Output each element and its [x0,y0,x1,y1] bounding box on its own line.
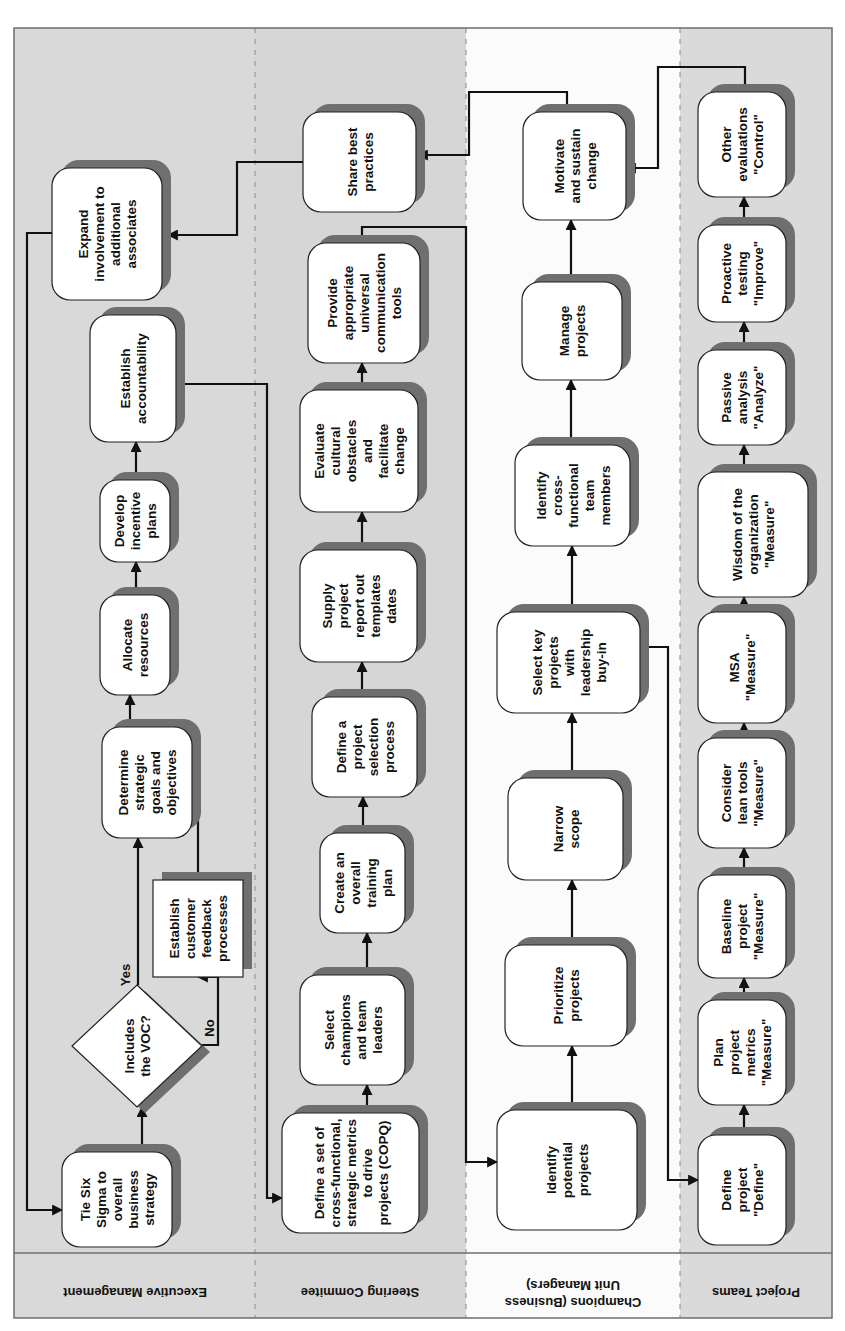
node-label-line: projects [576,1144,591,1197]
node-label-line: cultural [328,427,343,476]
node-label-line: change [584,142,599,190]
lane-label-executive: Executive Management [62,1285,206,1300]
node-label: Considerlean tools"Measure" [719,759,766,827]
node-label: Define aprojectselectionprocess [334,718,397,777]
node-label-line: Sigma to [94,1171,109,1228]
node-share-practices: Share bestpractices [303,104,425,212]
node-label-line: and [360,439,375,463]
node-label-line: feedback [199,899,214,958]
lane-label-steering: Steering Commitee [301,1285,419,1300]
node-label-line: Define a set of [312,1126,327,1219]
node-label-line: projects (COPQ) [376,1120,391,1225]
swimlane-flowchart: Executive Management Steering Commitee C… [0,0,845,1331]
node-label-line: project [336,583,351,629]
node-label-line: testing [735,251,750,295]
node-supply-templates: Supplyprojectreport outtemplatesdates [300,542,426,662]
process-box [100,595,170,695]
node-label-line: practices [361,132,376,191]
node-label-line: "Measure" [743,634,758,702]
node-msa: MSA"Measure" [698,604,795,723]
node-label-line: Plan [711,1038,726,1067]
node-label-line: strategic [132,754,147,811]
node-label: Manageprojects [557,305,588,358]
node-label-line: Motivate [552,138,567,193]
node-label-line: "Improve" [751,241,766,306]
node-label-line: templates [368,574,383,637]
node-prioritize: Prioritizeprojects [505,937,636,1046]
node-label-line: plan [380,869,395,897]
node-label-line: MSA [727,652,742,682]
node-label-line: selection [366,718,381,777]
node-label-line: change [392,427,407,475]
node-label-line: report out [352,574,367,638]
lane-label-champions-line1: Champions (Business [505,1295,642,1310]
node-label-line: customer [183,897,198,959]
node-label-line: Allocate [120,618,135,671]
node-label: Share bestpractices [345,127,376,197]
node-label-line: universal [357,273,372,332]
node-determine-goals: Determinestrategicgoals andobjectives [102,719,201,838]
node-label-line: with [562,649,577,677]
node-label-line: involvement to [92,186,107,281]
node-label-line: Wisdom of the [730,488,745,581]
node-identify-team: Identifycross-functionalteammembers [515,437,639,546]
node-label-line: Provide [325,278,340,328]
node-label-line: project [350,724,365,770]
node-label-line: dates [384,588,399,623]
node-label-line: Evaluate [312,423,327,479]
node-tie-six-sigma: Tie SixSigma tooverallbusinessstrategy [62,1144,181,1247]
node-label-line: Baseline [719,898,734,954]
node-evaluate-cultural: Evaluateculturalobstaclesandfacilitatech… [300,382,427,512]
node-label-line: Other [719,126,734,163]
node-label-line: Tie Six [78,1177,93,1221]
edge-label-no: No [202,1019,217,1036]
node-define-metrics: Define a set ofcross-functional,strategi… [282,1105,428,1233]
node-label: Define a set ofcross-functional,strategi… [312,1119,391,1228]
node-label-line: the VOC? [138,1015,153,1077]
node-label-line: incentive [128,491,143,550]
process-box [90,315,176,442]
node-label: Wisdom of theorganization"Measure" [730,488,777,581]
process-box [303,112,416,212]
node-label-line: champions [338,994,353,1065]
node-lean-tools: Considerlean tools"Measure" [698,730,795,848]
node-identify-potential: Identifypotentialprojects [497,1102,646,1230]
node-label-line: additional [108,202,123,266]
node-develop-incentive: Developincentiveplans [100,472,179,562]
node-other-evaluations: Otherevaluations"Control" [698,84,795,197]
node-plan-metrics: Planprojectmetrics"Measure" [698,992,795,1105]
node-label-line: projects [567,969,582,1022]
node-label-line: Manage [557,305,572,356]
node-label-line: and sustain [568,128,583,203]
node-manage-projects: Manageprojects [522,274,631,380]
node-label-line: scope [567,809,582,849]
node-baseline: Baselineproject"Measure" [698,867,795,978]
node-label-line: overall [348,861,363,905]
node-label-line: business [126,1170,141,1229]
node-select-champions: Selectchampionsand teamleaders [300,967,414,1085]
node-label-line: lean tools [735,761,750,824]
node-label-line: facilitate [376,423,391,478]
node-label-line: Develop [112,495,127,548]
node-label-line: "Measure" [751,893,766,961]
node-label-line: "Control" [751,114,766,175]
node-label-line: "Analyze" [751,366,766,430]
node-label-line: organization [746,494,761,574]
node-label-line: leaders [370,1006,385,1053]
process-box [508,778,623,880]
node-label-line: Define a [334,720,349,773]
node-label-line: analysis [735,371,750,424]
node-label-line: processes [215,895,230,962]
node-label-line: Expand [76,210,91,259]
node-define-project: Defineproject"Define" [698,1127,795,1245]
node-label: Allocateresources [120,613,151,678]
node-label: Defineproject"Define" [719,1163,766,1217]
node-label-line: metrics [743,1028,758,1076]
node-label-line: Includes [122,1019,137,1074]
node-label-line: Determine [116,749,131,816]
node-label-line: projects [546,636,561,689]
node-label-line: Select [322,1010,337,1050]
node-label-line: projects [573,305,588,358]
node-label-line: Create an [332,852,347,914]
node-label-line: accountability [134,333,149,424]
